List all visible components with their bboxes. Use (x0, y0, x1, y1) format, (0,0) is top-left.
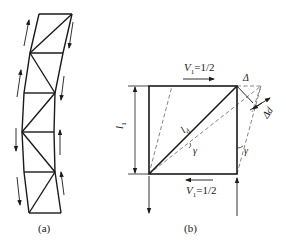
truss-diagonal (29, 172, 55, 213)
delta-label: Δ (243, 72, 249, 83)
arrow-down-icon (61, 76, 64, 100)
arrow-up-icon (17, 70, 21, 97)
extension-line (237, 86, 253, 103)
angle-arc-diagonal (189, 143, 191, 148)
truss-diagonal (30, 53, 55, 93)
truss-diagonal (30, 14, 72, 53)
top-force-label: V1=1/2 (184, 61, 215, 76)
diagram-canvas (0, 0, 286, 251)
deformed-left-side (149, 86, 172, 174)
deformed-shape (149, 86, 261, 174)
deformed-diagonal (149, 86, 261, 174)
gamma-side-label: γ (244, 145, 248, 156)
angle-arc-side (237, 146, 243, 148)
truss-column (22, 14, 72, 213)
gamma-diagonal-label: γ (193, 145, 197, 156)
angle-arcs (189, 143, 243, 148)
height-label: l1 (113, 122, 128, 129)
bottom-force-label: V1=1/2 (186, 184, 217, 199)
arrow-down-icon (17, 177, 20, 205)
shear-panel (149, 86, 237, 174)
height-dimension (128, 86, 149, 174)
arrow-up-icon (24, 20, 29, 46)
truss-diagonal (22, 132, 55, 172)
caption-b: (b) (184, 222, 197, 234)
truss-diagonal (22, 93, 55, 132)
panel-diagonal (149, 86, 237, 174)
caption-a: (a) (38, 222, 50, 234)
arrow-up-icon (61, 172, 64, 195)
